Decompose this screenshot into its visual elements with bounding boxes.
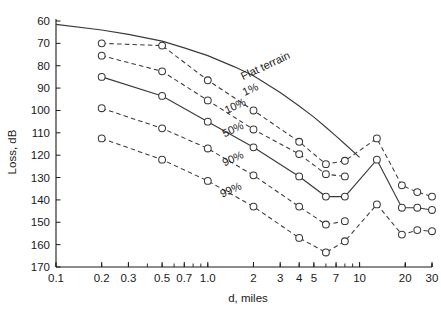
data-point-marker (341, 218, 348, 225)
curve-label-flat-terrain: Flat terrain (239, 49, 292, 82)
series-line (102, 77, 432, 210)
data-point-marker (159, 156, 166, 163)
data-point-marker (398, 182, 405, 189)
data-point-marker (296, 138, 303, 145)
data-point-marker (159, 68, 166, 75)
x-tick-label: 10 (353, 272, 366, 284)
data-point-marker (250, 126, 257, 133)
data-point-marker (323, 171, 330, 178)
data-point-marker (204, 97, 211, 104)
curve-label-1: 1% (240, 80, 260, 98)
propagation-loss-chart: 60708090100110120130140150160170 0.10.20… (0, 0, 441, 310)
data-point-marker (159, 125, 166, 132)
series-99 (98, 135, 435, 256)
y-tick-label: 150 (31, 216, 50, 228)
series-50 (98, 74, 435, 214)
data-point-marker (398, 204, 405, 211)
data-point-marker (341, 173, 348, 180)
x-tick-label: 7 (333, 272, 339, 284)
data-point-marker (414, 189, 421, 196)
data-point-marker (414, 227, 421, 234)
data-point-marker (98, 135, 105, 142)
chart-figure: 60708090100110120130140150160170 0.10.20… (0, 0, 441, 310)
x-tick-label: 0.2 (94, 272, 110, 284)
data-point-marker (250, 144, 257, 151)
data-point-marker (373, 201, 380, 208)
data-point-marker (296, 151, 303, 158)
data-point-marker (414, 204, 421, 211)
series-line (102, 108, 345, 224)
data-point-marker (341, 238, 348, 245)
data-point-marker (250, 107, 257, 114)
y-tick-label: 70 (37, 37, 50, 49)
data-point-marker (98, 74, 105, 81)
y-tick-label: 120 (31, 149, 50, 161)
x-tick-label: 0.5 (154, 272, 170, 284)
y-tick-label: 60 (37, 15, 50, 27)
data-point-marker (296, 173, 303, 180)
data-point-marker (429, 207, 436, 214)
data-point-marker (341, 193, 348, 200)
y-tick-label: 110 (32, 127, 50, 139)
data-point-marker (429, 193, 436, 200)
x-tick-label: 4 (296, 272, 303, 284)
data-point-marker (204, 145, 211, 152)
data-point-marker (204, 178, 211, 185)
axes-layer (56, 19, 432, 267)
data-point-marker (373, 156, 380, 163)
series-90 (98, 105, 348, 228)
data-point-marker (323, 221, 330, 228)
data-point-marker (98, 40, 105, 47)
x-tick-label: 0.1 (48, 272, 64, 284)
x-tick-label: 1.0 (200, 272, 216, 284)
data-series-layer (56, 24, 435, 256)
curve-label-10: 10% (222, 95, 247, 115)
y-tick-label: 90 (37, 82, 50, 94)
x-axis-ticks: 0.10.20.30.50.71.023457102030 (48, 262, 438, 284)
data-point-marker (250, 203, 257, 210)
x-tick-label: 2 (250, 272, 256, 284)
data-point-marker (398, 231, 405, 238)
data-point-marker (204, 77, 211, 84)
y-tick-label: 80 (37, 60, 50, 72)
data-point-marker (296, 235, 303, 242)
x-tick-label: 20 (399, 272, 412, 284)
x-tick-label: 3 (277, 272, 283, 284)
data-point-marker (373, 135, 380, 142)
y-tick-label: 100 (31, 104, 50, 116)
data-point-marker (159, 93, 166, 100)
data-point-marker (296, 203, 303, 210)
curve-label-99: 99% (218, 179, 243, 199)
curve-label-90: 90% (220, 148, 245, 168)
data-point-marker (323, 193, 330, 200)
data-point-marker (323, 249, 330, 256)
x-tick-label: 5 (311, 272, 317, 284)
y-tick-label: 130 (31, 172, 50, 184)
data-point-marker (98, 105, 105, 112)
y-tick-label: 160 (31, 239, 50, 251)
x-axis-title: d, miles (228, 292, 268, 304)
data-point-marker (204, 118, 211, 125)
data-point-marker (98, 52, 105, 59)
data-point-marker (341, 157, 348, 164)
x-tick-label: 0.7 (176, 272, 192, 284)
data-point-marker (429, 228, 436, 235)
data-point-marker (250, 172, 257, 179)
data-point-marker (159, 42, 166, 49)
x-tick-label: 30 (426, 272, 439, 284)
y-axis-title: Loss, dB (6, 129, 18, 174)
y-tick-label: 140 (31, 194, 50, 206)
x-tick-label: 0.3 (120, 272, 136, 284)
data-point-marker (323, 161, 330, 168)
